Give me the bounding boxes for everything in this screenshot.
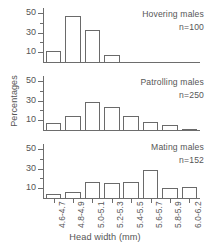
y-axis-tick [38,13,43,14]
panel-annotation-title: Patrolling males [140,77,204,87]
y-axis-tick-label: 10 [8,115,36,124]
bar [46,194,62,198]
y-axis-tick [38,188,43,189]
y-axis-tick-label: 50 [8,76,36,85]
y-axis-tick [38,101,43,102]
x-axis-tick [73,199,74,203]
y-axis-minor-tick [40,23,43,24]
bar [104,107,120,130]
y-axis-line [43,8,44,63]
panel-annotation-n: n=152 [179,155,204,165]
y-axis-minor-tick [40,42,43,43]
x-axis-label: Head width (mm) [0,232,210,242]
x-axis-tick [92,199,93,203]
bar [46,123,62,130]
x-axis-tick [170,199,171,203]
x-axis-category-label: 5.0-5.1 [96,201,106,228]
x-axis-category-label: 5.4-5.5 [135,201,145,228]
panel-annotation-n: n=250 [179,90,204,100]
x-axis-category-label: 5.2-5.3 [115,201,125,228]
y-axis-minor-tick [40,178,43,179]
x-axis-category-label: 5.6-5.7 [154,201,164,228]
x-axis-tick [54,199,55,203]
x-axis-tick [151,199,152,203]
bar [123,116,139,130]
bar [104,183,120,198]
y-axis-tick [38,33,43,34]
bar [46,51,62,62]
bar [162,188,178,198]
panel-patrolling-males: Patrolling males n=250 103050 [0,68,210,138]
y-axis-tick [38,120,43,121]
panel-annotation-n: n=100 [179,22,204,32]
y-axis-line [43,144,44,199]
y-axis-line [43,76,44,131]
x-axis-category-label: 4.6-4.7 [57,201,67,228]
bar [143,122,159,130]
x-axis-category-label: 4.8-4.9 [76,201,86,228]
x-axis-line [43,130,200,131]
y-axis-tick-label: 10 [8,47,36,56]
y-axis-tick-label: 30 [8,164,36,173]
bar [65,192,81,198]
panel-mating-males: Mating males n=152 103050 [0,136,210,206]
bar [123,182,139,198]
x-axis-tick [189,199,190,203]
x-axis-category-label: 5.8-5.9 [173,201,183,228]
bar [65,16,81,62]
bar [104,55,120,62]
y-axis-tick-label: 30 [8,96,36,105]
y-axis-minor-tick [40,91,43,92]
bar [85,102,101,130]
bar [182,187,198,198]
y-axis-tick-label: 30 [8,28,36,37]
x-axis-line [43,62,200,63]
bar [143,170,159,198]
panel-hovering-males: Hovering males n=100 103050 [0,0,210,70]
bar [85,182,101,198]
y-axis-tick-label: 50 [8,8,36,17]
chart-figure: Percentages Hovering males n=100 103050 … [0,0,210,249]
y-axis-tick [38,52,43,53]
y-axis-tick [38,169,43,170]
x-axis-category-label: 6.0-6.2 [193,201,203,228]
y-axis-minor-tick [40,110,43,111]
bar [85,30,101,62]
bar [182,129,198,131]
bar [65,116,81,130]
panel-annotation-title: Mating males [151,142,204,152]
x-axis-line [43,198,200,199]
y-axis-tick [38,149,43,150]
y-axis-minor-tick [40,159,43,160]
x-axis-tick [131,199,132,203]
x-axis-tick [112,199,113,203]
bar [162,125,178,130]
y-axis-tick-label: 50 [8,144,36,153]
y-axis-tick [38,81,43,82]
panel-annotation-title: Hovering males [142,9,204,19]
y-axis-tick-label: 10 [8,183,36,192]
